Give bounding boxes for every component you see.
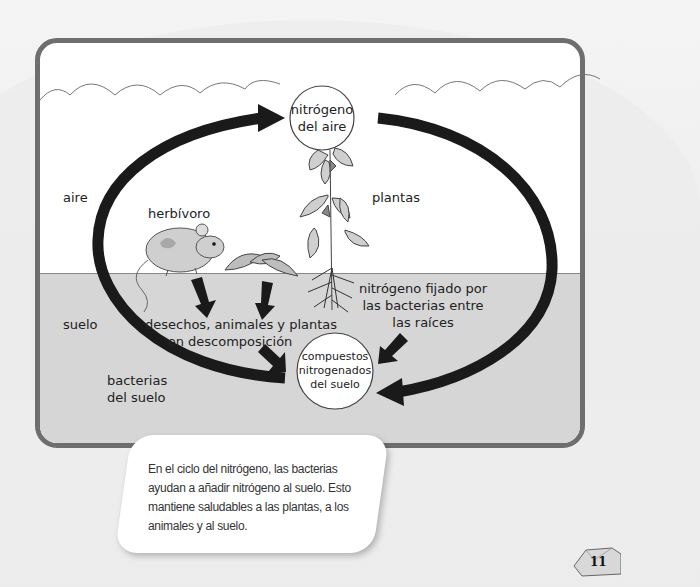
herbivore-label: herbívoro <box>148 205 210 222</box>
arrow-head-top <box>258 104 285 132</box>
decomposition-line-2: en descomposición <box>145 333 315 350</box>
soil-compounds-line-3: del suelo <box>295 378 375 392</box>
soil-bacteria-line-2: del suelo <box>107 389 167 406</box>
soil-compounds-line-1: compuestos <box>295 350 375 364</box>
caption-text: En el ciclo del nitrógeno, las bacterias… <box>148 460 363 536</box>
soil-zone-label: suelo <box>63 316 98 333</box>
fixed-nitrogen-line-2: las bacterias entre <box>358 297 488 314</box>
nitrogen-air-line-2: del aire <box>290 118 354 135</box>
page-number: 11 <box>590 555 607 569</box>
fixed-nitrogen-label: nitrógeno fijado por las bacterias entre… <box>358 280 488 331</box>
fixed-nitrogen-line-3: las raíces <box>358 314 488 331</box>
plants-label: plantas <box>372 189 420 206</box>
soil-bacteria-label: bacterias del suelo <box>107 372 167 406</box>
leaves-illustration <box>225 253 298 276</box>
fixed-nitrogen-line-1: nitrógeno fijado por <box>358 280 488 297</box>
soil-compounds-line-2: nitrogenados <box>295 364 375 378</box>
roots-illustration <box>308 268 354 312</box>
decomposition-line-1: desechos, animales y plantas <box>145 316 315 333</box>
nitrogen-air-line-1: nitrógeno <box>290 101 354 118</box>
air-zone-label: aire <box>63 189 88 206</box>
nitrogen-air-label: nitrógeno del aire <box>290 101 354 135</box>
arrow-head-bottom <box>376 378 404 406</box>
soil-bacteria-line-1: bacterias <box>107 372 167 389</box>
soil-compounds-label: compuestos nitrogenados del suelo <box>295 350 375 392</box>
mouse-illustration <box>136 224 224 312</box>
decomposition-label: desechos, animales y plantas en descompo… <box>145 316 315 350</box>
